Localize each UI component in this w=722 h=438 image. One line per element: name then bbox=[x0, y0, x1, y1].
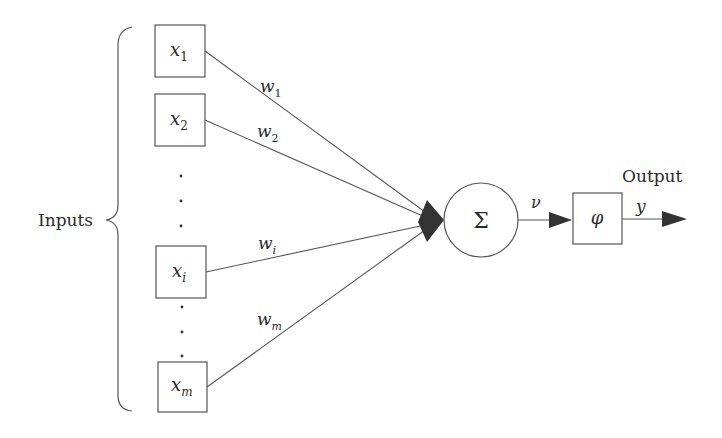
ellipsis-dots-upper bbox=[180, 175, 183, 228]
induced-field-arrowhead-icon bbox=[549, 212, 572, 228]
output-label: Output bbox=[622, 166, 683, 186]
output-arrowhead-icon bbox=[662, 211, 687, 227]
weight-line-m bbox=[207, 230, 425, 387]
summation-symbol: Σ bbox=[473, 208, 489, 233]
ellipsis-dots-lower bbox=[181, 306, 184, 358]
weight-label-w1: w1 bbox=[260, 76, 282, 100]
weight-connections bbox=[205, 51, 425, 387]
weight-label-wm: wm bbox=[257, 309, 282, 333]
inputs-brace bbox=[106, 27, 132, 411]
neuron-diagram: Inputs x1 x2 xi xm w1 w2 wi wm Σ ν φ y O… bbox=[0, 0, 722, 438]
weight-line-i bbox=[206, 225, 425, 272]
output-symbol: y bbox=[635, 196, 646, 216]
weight-label-w2: w2 bbox=[257, 121, 279, 145]
weight-line-1 bbox=[205, 51, 425, 212]
activation-symbol: φ bbox=[591, 207, 604, 228]
weight-label-wi: wi bbox=[258, 233, 276, 257]
weight-line-2 bbox=[205, 120, 425, 217]
inputs-label: Inputs bbox=[38, 210, 93, 230]
induced-field-label: ν bbox=[531, 193, 541, 212]
merged-arrowhead-icon bbox=[418, 200, 444, 242]
